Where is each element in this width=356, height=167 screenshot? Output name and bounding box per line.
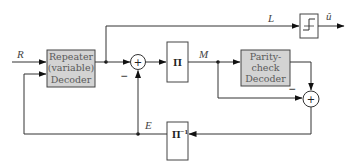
label-m: M bbox=[198, 48, 209, 60]
label-u-hat: û bbox=[326, 10, 332, 22]
input-signal-r: R bbox=[12, 48, 46, 62]
parity-label-line2: check bbox=[251, 62, 279, 73]
repeater-decoder-block: Repeater (variable) Decoder bbox=[47, 50, 95, 87]
parity-label-line1: Parity- bbox=[250, 51, 282, 62]
summer1-plus: + bbox=[134, 57, 142, 68]
output-signal-u: û bbox=[318, 10, 344, 26]
summer-1: + − bbox=[120, 55, 145, 84]
interleaver-label: Π bbox=[173, 56, 182, 68]
repeater-label-line3: Decoder bbox=[51, 74, 92, 85]
repeater-label-line2: (variable) bbox=[48, 62, 94, 73]
wire-summer2-to-deinterleaver bbox=[189, 107, 311, 134]
deinterleaver-block: Π−1 bbox=[167, 122, 189, 160]
repeater-label-line1: Repeater bbox=[49, 51, 94, 62]
label-e: E bbox=[144, 119, 152, 131]
interleaver-block: Π bbox=[167, 42, 188, 82]
summer2-plus: + bbox=[307, 94, 315, 105]
hard-decision-block bbox=[300, 14, 318, 38]
label-l: L bbox=[267, 12, 274, 24]
summer2-minus: − bbox=[288, 82, 295, 96]
parity-check-decoder-block: Parity- check Decoder bbox=[241, 50, 290, 86]
label-r: R bbox=[16, 48, 24, 60]
summer-2: + − bbox=[288, 82, 319, 107]
decoder-block-diagram: R Repeater (variable) Decoder L û + − Π bbox=[0, 0, 356, 167]
parity-label-line3: Decoder bbox=[245, 73, 286, 84]
deinterleaver-superscript: −1 bbox=[181, 128, 189, 136]
summer1-minus: − bbox=[120, 69, 127, 83]
